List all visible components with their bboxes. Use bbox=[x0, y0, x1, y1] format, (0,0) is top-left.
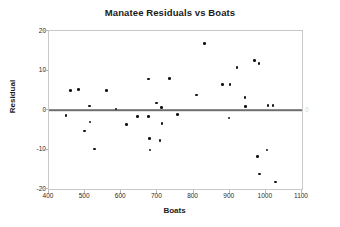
data-point bbox=[147, 115, 150, 118]
data-point bbox=[88, 105, 91, 108]
x-tick-label: 600 bbox=[105, 192, 135, 199]
zero-reference-line bbox=[49, 109, 302, 111]
data-point bbox=[83, 130, 86, 133]
x-tick-label: 1000 bbox=[250, 192, 280, 199]
y-tick-label: 10 bbox=[22, 66, 46, 73]
data-point bbox=[229, 83, 232, 86]
data-point bbox=[159, 139, 162, 142]
y-tick-label: 20 bbox=[22, 27, 46, 34]
data-point bbox=[176, 113, 179, 116]
chart-title: Manatee Residuals vs Boats bbox=[0, 7, 340, 18]
data-point bbox=[203, 42, 206, 45]
data-point bbox=[65, 114, 68, 117]
data-point bbox=[93, 148, 96, 151]
data-point bbox=[272, 104, 275, 107]
data-point bbox=[256, 155, 259, 158]
y-tick-label: -10 bbox=[22, 145, 46, 152]
data-point bbox=[258, 173, 261, 176]
data-point bbox=[89, 121, 92, 124]
data-point bbox=[236, 66, 239, 69]
x-axis-label: Boats bbox=[48, 206, 301, 215]
data-point bbox=[136, 115, 139, 118]
data-point bbox=[221, 83, 224, 86]
data-point bbox=[160, 106, 163, 109]
data-point bbox=[244, 105, 247, 108]
data-point bbox=[149, 149, 152, 152]
data-point bbox=[228, 117, 231, 120]
reference-line-label: 0 bbox=[305, 106, 309, 114]
x-tick-label: 1100 bbox=[286, 192, 316, 199]
data-point bbox=[258, 62, 261, 65]
data-point bbox=[148, 137, 151, 140]
scatter-chart: Manatee Residuals vs Boats Residual Boat… bbox=[0, 0, 340, 227]
y-tick-label: 0 bbox=[22, 106, 46, 113]
data-point bbox=[147, 78, 150, 81]
y-tick-label: -20 bbox=[22, 185, 46, 192]
x-tick-label: 700 bbox=[141, 192, 171, 199]
x-tick-label: 400 bbox=[33, 192, 63, 199]
plot-area bbox=[48, 30, 303, 190]
x-tick-label: 900 bbox=[214, 192, 244, 199]
data-point bbox=[69, 89, 72, 92]
data-point bbox=[274, 181, 277, 184]
data-point bbox=[253, 59, 256, 62]
data-point bbox=[77, 88, 80, 91]
data-point bbox=[161, 122, 164, 125]
data-point bbox=[244, 96, 247, 99]
data-point bbox=[266, 149, 269, 152]
y-axis-label: Residual bbox=[8, 67, 17, 127]
data-point bbox=[155, 102, 158, 105]
data-point bbox=[125, 123, 128, 126]
data-point bbox=[195, 94, 198, 97]
data-point bbox=[168, 77, 171, 80]
x-tick-label: 800 bbox=[178, 192, 208, 199]
x-tick-label: 500 bbox=[69, 192, 99, 199]
data-point bbox=[105, 89, 108, 92]
data-point bbox=[267, 104, 270, 107]
